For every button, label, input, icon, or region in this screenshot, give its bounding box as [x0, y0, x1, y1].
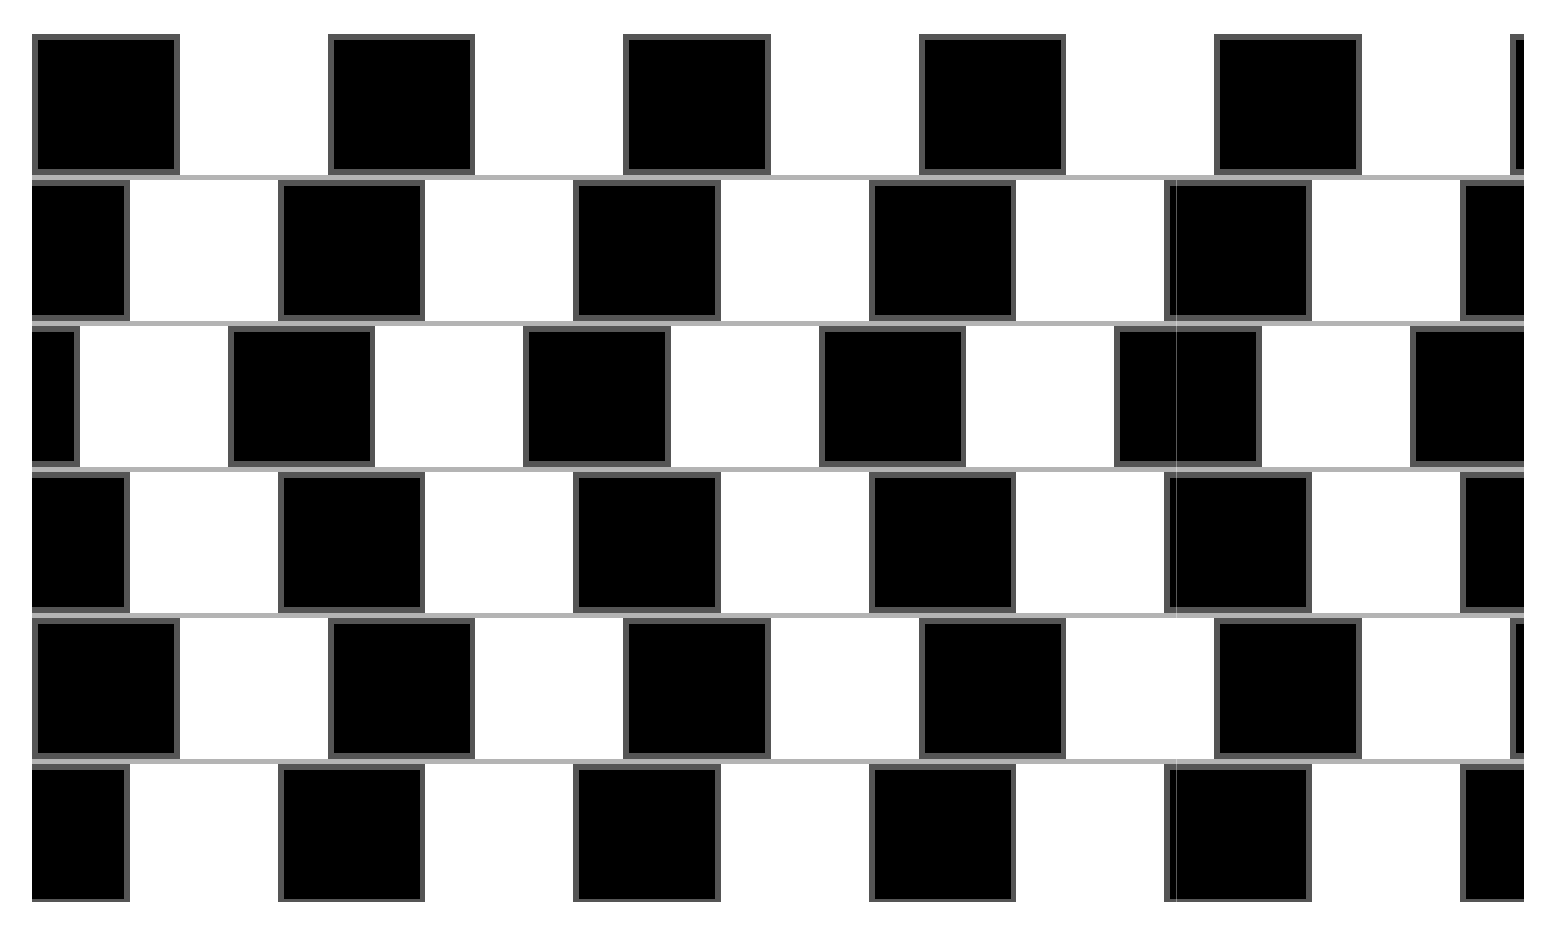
white-tile: [1066, 618, 1214, 759]
white-tile: [671, 326, 819, 467]
white-tile: [1362, 34, 1510, 175]
black-tile: [278, 180, 426, 321]
black-tile: [869, 472, 1017, 613]
white-tile: [771, 618, 919, 759]
black-tile: [1510, 618, 1524, 759]
white-tile: [130, 472, 278, 613]
black-tile: [573, 472, 721, 613]
black-tile: [1164, 180, 1312, 321]
black-tile: [32, 180, 130, 321]
white-tile: [721, 764, 869, 902]
tile-row-1: [32, 34, 1524, 175]
black-tile: [573, 764, 721, 902]
tile-row-2: [32, 180, 1524, 321]
black-tile: [919, 618, 1067, 759]
white-tile: [1312, 764, 1460, 902]
black-tile: [1460, 764, 1524, 902]
white-tile: [1312, 180, 1460, 321]
white-tile: [771, 34, 919, 175]
black-tile: [919, 34, 1067, 175]
black-tile: [1164, 472, 1312, 613]
white-tile: [1362, 618, 1510, 759]
black-tile: [869, 180, 1017, 321]
black-tile: [1460, 180, 1524, 321]
white-tile: [130, 764, 278, 902]
black-tile: [278, 472, 426, 613]
white-tile: [425, 764, 573, 902]
white-tile: [721, 472, 869, 613]
black-tile: [32, 472, 130, 613]
black-tile: [869, 764, 1017, 902]
white-tile: [375, 326, 523, 467]
white-tile: [1262, 326, 1410, 467]
white-tile: [80, 326, 228, 467]
white-tile: [1312, 472, 1460, 613]
scan-artifact-line: [1176, 180, 1177, 902]
black-tile: [573, 180, 721, 321]
white-tile: [130, 180, 278, 321]
black-tile: [32, 764, 130, 902]
black-tile: [623, 34, 771, 175]
cafe-wall-illusion: [32, 34, 1524, 902]
white-tile: [475, 34, 623, 175]
black-tile: [1460, 472, 1524, 613]
white-tile: [966, 326, 1114, 467]
white-tile: [425, 472, 573, 613]
white-tile: [721, 180, 869, 321]
tile-row-3: [32, 326, 1524, 467]
black-tile: [1214, 618, 1362, 759]
white-tile: [425, 180, 573, 321]
white-tile: [475, 618, 623, 759]
white-tile: [1016, 180, 1164, 321]
black-tile: [328, 618, 476, 759]
black-tile: [1114, 326, 1262, 467]
tile-row-4: [32, 472, 1524, 613]
black-tile: [328, 34, 476, 175]
white-tile: [180, 34, 328, 175]
black-tile: [523, 326, 671, 467]
tile-row-6: [32, 764, 1524, 902]
black-tile: [1510, 34, 1524, 175]
white-tile: [1016, 472, 1164, 613]
black-tile: [32, 326, 80, 467]
white-tile: [180, 618, 328, 759]
black-tile: [278, 764, 426, 902]
black-tile: [1410, 326, 1524, 467]
white-tile: [1016, 764, 1164, 902]
black-tile: [819, 326, 967, 467]
black-tile: [623, 618, 771, 759]
black-tile: [1164, 764, 1312, 902]
white-tile: [1066, 34, 1214, 175]
tile-row-5: [32, 618, 1524, 759]
black-tile: [1214, 34, 1362, 175]
black-tile: [32, 618, 180, 759]
black-tile: [32, 34, 180, 175]
black-tile: [228, 326, 376, 467]
